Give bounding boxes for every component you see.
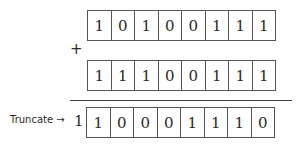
bit-cell: 1	[229, 61, 253, 90]
bit-cell: 0	[111, 108, 135, 137]
sum-rule-line	[70, 100, 292, 101]
bit-cell: 1	[253, 61, 276, 90]
bit-cell: 0	[158, 108, 182, 137]
operand-a-register: 10100111	[87, 10, 276, 41]
bit-cell: 1	[205, 108, 229, 137]
bit-cell: 0	[159, 61, 183, 90]
truncate-label: Truncate →	[10, 114, 65, 125]
bit-cell: 1	[112, 61, 136, 90]
bit-cell: 1	[181, 108, 205, 137]
bit-cell: 0	[252, 108, 275, 137]
bit-cell: 0	[182, 11, 206, 40]
carry-bit: 1	[74, 112, 84, 130]
bit-cell: 1	[87, 108, 111, 137]
operand-b-register: 11100111	[87, 60, 276, 91]
bit-cell: 1	[253, 11, 276, 40]
bit-cell: 0	[159, 11, 183, 40]
bit-cell: 1	[206, 11, 230, 40]
bit-cell: 1	[206, 61, 230, 90]
bit-cell: 1	[228, 108, 252, 137]
bit-cell: 1	[135, 11, 159, 40]
result-register: 10001110	[86, 107, 275, 138]
bit-cell: 0	[112, 11, 136, 40]
bit-cell: 1	[135, 61, 159, 90]
bit-cell: 1	[229, 11, 253, 40]
bit-cell: 0	[134, 108, 158, 137]
bit-cell: 1	[88, 61, 112, 90]
bit-cell: 1	[88, 11, 112, 40]
plus-operator: +	[70, 40, 83, 58]
bit-cell: 0	[182, 61, 206, 90]
